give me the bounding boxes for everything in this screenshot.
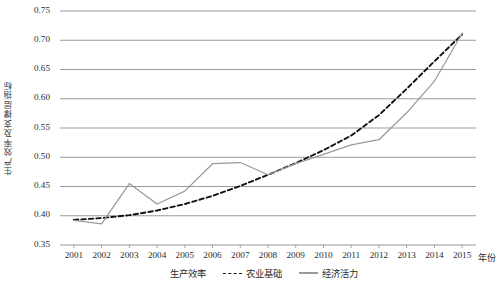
y-tick-label: 0.75 (20, 5, 50, 15)
legend-item[interactable]: 生产效率 (147, 266, 206, 280)
y-tick-label: 0.35 (20, 239, 50, 249)
legend-label: 经济活力 (322, 266, 358, 280)
legend-swatch-dashed-icon (223, 273, 242, 274)
plot-area (0, 0, 504, 289)
legend-label: 农业基础 (246, 266, 282, 280)
x-axis-title: 年份 (478, 251, 496, 264)
line-chart: 生产效率及支撑层指标 0.350.400.450.500.550.600.650… (0, 0, 504, 289)
legend-item[interactable]: 农业基础 (223, 266, 282, 280)
series-line-2 (74, 33, 462, 224)
data-series-group (74, 33, 462, 224)
legend-item[interactable]: 经济活力 (299, 266, 358, 280)
gridlines (60, 11, 476, 245)
y-tick-label: 0.65 (20, 63, 50, 73)
series-line-1 (74, 34, 462, 219)
chart-legend: 生产效率农业基础经济活力 (0, 266, 504, 280)
y-tick-label: 0.40 (20, 209, 50, 219)
legend-swatch-none-icon (147, 272, 166, 274)
y-tick-label: 0.50 (20, 151, 50, 161)
legend-label: 生产效率 (170, 266, 206, 280)
x-tick-label: 2015 (445, 250, 479, 260)
y-tick-label: 0.45 (20, 180, 50, 190)
legend-swatch-solid-icon (299, 272, 318, 273)
y-tick-label: 0.70 (20, 34, 50, 44)
y-tick-label: 0.60 (20, 92, 50, 102)
y-tick-label: 0.55 (20, 122, 50, 132)
